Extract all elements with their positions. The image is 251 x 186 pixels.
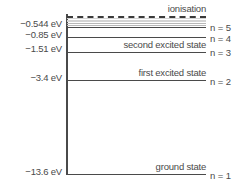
energy-label-n2: −3.4 eV	[0, 72, 62, 83]
n-label-n5: n = 5	[210, 22, 231, 33]
state-label-ground: ground state	[106, 161, 206, 172]
level-line-n2	[67, 80, 206, 81]
level-line-n1	[67, 174, 206, 175]
energy-label-n5: −0.544 eV	[0, 18, 62, 29]
level-line-n3	[67, 52, 206, 53]
level-line-n4	[67, 37, 206, 38]
n-label-n3: n = 3	[210, 47, 231, 58]
energy-label-n3: −1.51 eV	[0, 43, 62, 54]
converging-level-line	[67, 25, 206, 26]
state-label-second-excited: second excited state	[86, 39, 206, 50]
n-label-n1: n = 1	[210, 170, 231, 181]
energy-label-n1: −13.6 eV	[0, 166, 62, 177]
n-label-n4: n = 4	[210, 33, 231, 44]
n-label-n2: n = 2	[210, 76, 231, 87]
state-label-first-excited: first excited state	[96, 67, 206, 78]
energy-axis	[66, 14, 68, 175]
energy-level-diagram: ionisation −0.544 eV n = 5 −0.85 eV n = …	[0, 0, 251, 186]
level-line-n5	[67, 27, 206, 28]
energy-label-n4: −0.85 eV	[0, 29, 62, 40]
ionisation-label: ionisation	[106, 3, 206, 14]
